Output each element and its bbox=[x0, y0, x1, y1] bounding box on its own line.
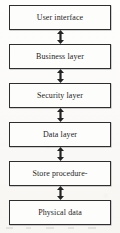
double-arrow-icon bbox=[56, 108, 65, 122]
double-arrow-icon bbox=[56, 30, 65, 44]
layer-box-business-layer[interactable]: Business layer bbox=[9, 44, 111, 69]
layer-box-security-layer[interactable]: Security layer bbox=[9, 83, 111, 108]
layer-label-physical-data: Physical data bbox=[38, 208, 82, 216]
layer-box-data-layer[interactable]: Data layer bbox=[9, 122, 111, 147]
connector-security-layer-to-data-layer bbox=[0, 108, 120, 122]
layer-label-data-layer: Data layer bbox=[43, 130, 77, 138]
double-arrow-icon bbox=[56, 69, 65, 83]
connector-user-interface-to-business-layer bbox=[0, 30, 120, 44]
layer-label-user-interface: User interface bbox=[37, 13, 83, 21]
layer-stack: User interface Business layer Security l… bbox=[0, 0, 120, 233]
layer-label-business-layer: Business layer bbox=[36, 52, 84, 60]
layer-box-user-interface[interactable]: User interface bbox=[9, 5, 111, 30]
connector-data-layer-to-store-procedure bbox=[0, 147, 120, 161]
layer-box-physical-data[interactable]: Physical data bbox=[9, 200, 111, 225]
layered-architecture-diagram: User interface Business layer Security l… bbox=[0, 0, 120, 233]
connector-business-layer-to-security-layer bbox=[0, 69, 120, 83]
double-arrow-icon bbox=[56, 186, 65, 200]
connector-store-procedure-to-physical-data bbox=[0, 186, 120, 200]
double-arrow-icon bbox=[56, 147, 65, 161]
layer-label-security-layer: Security layer bbox=[37, 91, 83, 99]
layer-box-store-procedure[interactable]: Store procedure- bbox=[9, 161, 111, 186]
layer-label-store-procedure: Store procedure- bbox=[32, 169, 87, 177]
